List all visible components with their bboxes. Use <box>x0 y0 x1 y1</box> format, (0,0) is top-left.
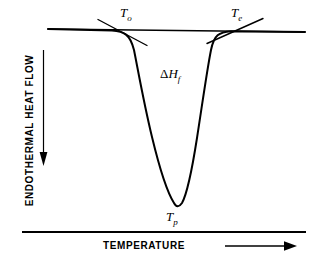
endset-temperature-label: Te <box>231 5 242 23</box>
x-axis-direction-arrow <box>225 241 297 251</box>
thermogram-plot <box>0 0 326 262</box>
y-axis-label: ENDOTHERMAL HEAT FLOW <box>24 41 35 221</box>
thermogram-curve <box>48 29 305 206</box>
onset-tangent-line <box>98 20 147 46</box>
y-axis-direction-arrow <box>40 50 48 166</box>
dsc-thermogram-figure: To Te ΔHf Tp ENDOTHERMAL HEAT FLOW TEMPE… <box>0 0 326 262</box>
onset-temperature-label: To <box>120 5 132 23</box>
enthalpy-of-fusion-label: ΔHf <box>160 66 180 84</box>
x-axis-label: TEMPERATURE <box>103 240 185 251</box>
peak-temperature-label: Tp <box>166 209 178 227</box>
